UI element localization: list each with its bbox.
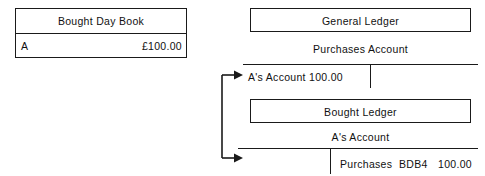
- arrowhead-down-icon: [234, 154, 243, 163]
- bought-day-book-header-divider: [15, 33, 187, 34]
- purchases-account-label: Purchases Account: [250, 43, 471, 55]
- purchases-account-center-rule: [370, 64, 371, 88]
- bought-day-book-row-name: A: [21, 41, 28, 52]
- general-ledger-title: General Ledger: [250, 15, 471, 27]
- as-account-center-rule: [330, 148, 331, 174]
- bought-ledger-title: Bought Ledger: [250, 106, 471, 118]
- purchases-account-top-rule: [243, 64, 478, 65]
- as-account-credit-amount: 100.00: [438, 159, 472, 170]
- as-account-top-rule: [238, 148, 478, 149]
- bought-day-book-row-amount: £100.00: [125, 41, 182, 52]
- as-account-label: A's Account: [250, 131, 471, 143]
- purchases-account-debit-entry: A's Account 100.00: [248, 72, 343, 83]
- bought-day-book-title: Bought Day Book: [15, 15, 187, 27]
- arrowhead-up-icon: [234, 71, 243, 80]
- as-account-credit-description: Purchases: [340, 159, 392, 170]
- as-account-credit-reference: BDB4: [399, 159, 428, 170]
- posting-diagram: Bought Day Book A £100.00 General Ledger…: [0, 0, 485, 176]
